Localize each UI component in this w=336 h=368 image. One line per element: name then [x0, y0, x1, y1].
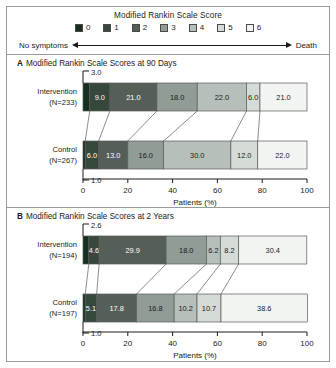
segment-value-label: 29.9 — [125, 246, 139, 255]
boundary-connector — [137, 264, 167, 294]
boundary-connector — [174, 264, 206, 294]
x-axis-title: Patients (%) — [173, 351, 217, 360]
segment-score-6[interactable]: 30.4 — [239, 236, 307, 264]
segment-score-3[interactable]: 16.0 — [128, 141, 164, 169]
boundary-connector — [85, 264, 89, 294]
boundary-connector — [97, 264, 99, 294]
legend-swatch-icon-3 — [160, 24, 168, 32]
legend-item-0: 0 — [75, 24, 90, 32]
row-name-label: Intervention — [37, 240, 77, 249]
segment-value-label: 38.6 — [257, 304, 271, 313]
segment-score-2[interactable]: 13.0 — [99, 141, 128, 169]
leader-bottom: 1.0 — [83, 169, 102, 185]
boundary-connector — [85, 111, 89, 141]
boundary-connector — [197, 264, 220, 294]
x-axis-title: Patients (%) — [173, 198, 217, 207]
segment-score-3[interactable]: 16.8 — [137, 294, 175, 322]
x-tick-label: 0 — [81, 339, 86, 348]
figure-container: Modified Rankin Scale Score 0123456 No s… — [6, 6, 330, 362]
segment-score-2[interactable]: 29.9 — [99, 236, 166, 264]
boundary-connector — [221, 264, 239, 294]
legend-label-5: 5 — [228, 24, 232, 32]
segment-score-5[interactable]: 8.2 — [220, 236, 238, 264]
segment-value-label: 13.0 — [106, 151, 120, 160]
legend-label-3: 3 — [171, 24, 175, 32]
segment-score-1[interactable]: 4.6 — [89, 236, 99, 264]
leader-bottom: 1.0 — [83, 322, 102, 338]
bar-row-control: 5.117.816.810.210.738.6 — [83, 294, 307, 322]
segment-score-4[interactable]: 30.0 — [164, 141, 231, 169]
segment-score-5[interactable]: 6.0 — [247, 83, 260, 111]
segment-score-6[interactable]: 22.0 — [258, 141, 307, 169]
x-tick-label: 20 — [123, 339, 132, 348]
legend: Modified Rankin Scale Score 0123456 No s… — [7, 7, 329, 55]
segment-score-1[interactable]: 9.0 — [90, 83, 110, 111]
x-tick-label: 60 — [213, 339, 222, 348]
x-tick-label: 20 — [123, 186, 132, 195]
segment-score-5[interactable]: 12.0 — [231, 141, 258, 169]
segment-score-6[interactable]: 21.0 — [260, 83, 307, 111]
segment-score-6[interactable]: 38.6 — [221, 294, 307, 322]
segment-value-label: 5.1 — [86, 304, 96, 313]
segment-value-label: 30.4 — [266, 246, 280, 255]
legend-item-4: 4 — [189, 24, 204, 32]
segment-value-label: 4.6 — [89, 246, 99, 255]
scale-direction-row: No symptoms Death — [19, 39, 317, 51]
segment-value-label: 21.0 — [276, 93, 290, 102]
segment-score-4[interactable]: 22.0 — [197, 83, 246, 111]
legend-swatch-icon-5 — [217, 24, 225, 32]
leader-top-label: 2.6 — [91, 221, 102, 230]
row-n-label: (N=267) — [49, 156, 77, 165]
segment-score-2[interactable]: 21.0 — [110, 83, 157, 111]
legend-swatch-icon-2 — [132, 24, 140, 32]
legend-label-1: 1 — [114, 24, 118, 32]
segment-value-label: 12.0 — [237, 151, 251, 160]
row-name-label: Control — [53, 145, 78, 154]
segment-score-2[interactable]: 17.8 — [97, 294, 137, 322]
leader-bottom-label: 1.0 — [91, 329, 102, 338]
segment-value-label: 6.2 — [208, 246, 218, 255]
legend-label-0: 0 — [86, 24, 90, 32]
segment-score-4[interactable]: 6.2 — [206, 236, 220, 264]
x-tick-label: 60 — [213, 186, 222, 195]
row-n-label: (N=233) — [49, 98, 77, 107]
leader-bottom-label: 1.0 — [91, 176, 102, 185]
segment-score-1[interactable]: 6.0 — [85, 141, 98, 169]
x-tick-label: 80 — [258, 339, 267, 348]
segment-value-label: 8.2 — [224, 246, 234, 255]
bar-row-intervention: 9.021.018.022.06.021.0 — [83, 83, 307, 111]
row-name-label: Control — [53, 298, 78, 307]
segment-score-3[interactable]: 18.0 — [166, 236, 206, 264]
segment-value-label: 21.0 — [126, 93, 140, 102]
row-name-label: Intervention — [37, 87, 77, 96]
panel-a: AModified Rankin Scale Scores at 90 Days… — [7, 55, 329, 208]
legend-swatch-icon-6 — [246, 24, 254, 32]
scale-left-anchor: No symptoms — [19, 41, 68, 50]
segment-score-3[interactable]: 18.0 — [157, 83, 197, 111]
segment-value-label: 10.7 — [202, 304, 216, 313]
segment-value-label: 6.0 — [248, 93, 258, 102]
boundary-connector — [164, 111, 198, 141]
legend-item-5: 5 — [217, 24, 232, 32]
segment-score-5[interactable]: 10.7 — [197, 294, 221, 322]
legend-title: Modified Rankin Scale Score — [7, 11, 329, 20]
row-n-label: (N=194) — [49, 251, 77, 260]
legend-label-6: 6 — [257, 24, 261, 32]
segment-score-1[interactable]: 5.1 — [85, 294, 96, 322]
segment-value-label: 22.0 — [275, 151, 289, 160]
segment-value-label: 18.0 — [179, 246, 193, 255]
x-tick-label: 100 — [300, 339, 314, 348]
panel-a-svg: 9.021.018.022.06.021.0Intervention(N=233… — [7, 55, 331, 208]
x-tick-label: 80 — [258, 186, 267, 195]
segment-score-0[interactable] — [83, 83, 90, 111]
boundary-connector — [258, 111, 260, 141]
x-tick-label: 40 — [168, 339, 177, 348]
x-tick-label: 0 — [81, 186, 86, 195]
segment-score-4[interactable]: 10.2 — [174, 294, 197, 322]
x-tick-label: 40 — [168, 186, 177, 195]
segment-value-label: 10.2 — [178, 304, 192, 313]
panel-b-plot: 4.629.918.06.28.230.4Intervention(N=194)… — [7, 208, 329, 361]
x-tick-label: 100 — [300, 186, 314, 195]
segment-value-label: 18.0 — [170, 93, 184, 102]
leader-top: 2.6 — [83, 221, 102, 237]
